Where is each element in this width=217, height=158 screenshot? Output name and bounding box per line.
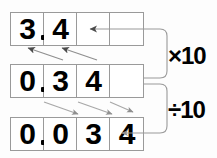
multiply-by-ten-label: ×10 [168,42,206,70]
place-value-row-2: 0 3 4 [10,64,144,98]
row1-cell-1: 3 [11,13,44,45]
row3-cell-4: 4 [110,118,143,150]
row3-digit-1: 0 [19,119,35,149]
row3-digit-4: 4 [119,119,135,149]
shift-down-arrow-1 [44,102,78,114]
shift-down-arrow-3 [110,102,133,112]
row1-cell-2: 4 [44,13,77,45]
place-value-row-3: 0 0 3 4 [10,117,144,151]
row1-digit-1: 3 [19,14,35,44]
place-value-diagram: 3 4 0 3 4 0 [0,0,217,158]
shift-down-arrows [44,102,133,114]
row3-digit-3: 3 [85,119,101,149]
row2-digit-1: 0 [19,66,35,96]
row1-cell-3 [77,13,110,45]
row2-cell-4 [110,65,143,97]
row2-digit-2: 3 [52,66,68,96]
row2-digit-3: 4 [85,66,101,96]
row3-cell-3: 3 [77,118,110,150]
shift-up-arrow-1 [28,48,63,60]
row1-digit-2: 4 [52,14,68,44]
shift-up-arrow-2 [62,48,97,60]
shift-up-arrows [28,48,97,60]
row2-cell-2: 3 [44,65,77,97]
place-value-row-1: 3 4 [10,12,144,46]
divide-by-ten-label: ÷10 [168,96,205,124]
row2-cell-3: 4 [77,65,110,97]
row3-cell-2: 0 [44,118,77,150]
row3-digit-2: 0 [52,119,68,149]
row2-cell-1: 0 [11,65,44,97]
row3-cell-1: 0 [11,118,44,150]
row1-cell-4 [110,13,143,45]
shift-down-arrow-2 [78,102,112,114]
